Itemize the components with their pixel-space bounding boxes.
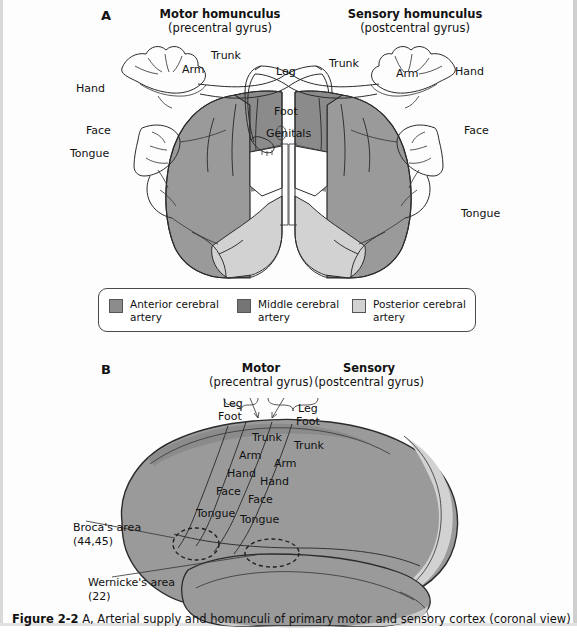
- panel-b-label-sensory-foot: Foot: [296, 416, 320, 428]
- label-right-tongue: Tongue: [461, 208, 500, 220]
- label-left-trunk: Trunk: [211, 50, 241, 62]
- right-ventricle-notch: [295, 146, 327, 196]
- label-left-leg: Leg: [276, 66, 296, 78]
- label-left-arm: Arm: [182, 64, 205, 76]
- label-left-face: Face: [86, 125, 111, 137]
- panel-a-illustration: [0, 0, 577, 290]
- left-ventricle-notch: [250, 146, 282, 196]
- legend-swatch-middle: [237, 299, 251, 313]
- left-brow: [152, 132, 165, 143]
- panel-b-label-sensory-leg: Leg: [298, 403, 318, 415]
- right-finger-crease-1: [419, 66, 442, 74]
- brocas-area-number: (44,45): [73, 536, 113, 548]
- right-palm-line: [371, 84, 437, 96]
- right-eye-line: [410, 146, 427, 150]
- panel-b-motor-title-sub: (precentral gyrus): [206, 376, 316, 390]
- wernickes-area-label: Wernicke's area: [88, 577, 175, 589]
- panel-b-sensory-trunk: Trunk: [294, 440, 324, 452]
- panel-b-motor-title: Motor (precentral gyrus): [206, 362, 316, 389]
- artery-legend: Anterior cerebral artery Middle cerebral…: [98, 288, 476, 332]
- panel-b-motor-hand: Hand: [227, 468, 256, 480]
- left-eye-line: [150, 146, 167, 150]
- label-right-trunk: Trunk: [329, 58, 359, 70]
- legend-item-posterior: Posterior cerebral artery: [352, 298, 481, 323]
- panel-b-sensory-hand: Hand: [260, 476, 289, 488]
- panel-b-motor-tongue: Tongue: [196, 508, 235, 520]
- legend-swatch-posterior: [352, 299, 366, 313]
- sensory-foot-arrowhead: [272, 412, 277, 418]
- label-left-hand: Hand: [76, 83, 105, 95]
- panel-b-label-motor-leg: Leg: [223, 398, 243, 410]
- label-left-foot: Foot: [274, 106, 298, 118]
- panel-b-sensory-title-main: Sensory: [304, 362, 434, 376]
- panel-b-motor-face: Face: [216, 486, 241, 498]
- panel-b-letter: B: [101, 362, 111, 377]
- left-mouth-line: [146, 158, 168, 163]
- label-left-genitals: Genitals: [266, 128, 311, 140]
- label-right-face: Face: [464, 125, 489, 137]
- right-wrist-line: [405, 96, 419, 108]
- legend-swatch-anterior: [109, 299, 123, 313]
- left-palm-line: [140, 84, 206, 96]
- panel-b-illustration: [0, 392, 577, 632]
- panel-b-motor-arm: Arm: [239, 450, 262, 462]
- left-finger-crease-3: [165, 54, 169, 72]
- legend-item-middle: Middle cerebral artery: [237, 298, 366, 323]
- left-finger-crease-1: [135, 66, 158, 74]
- panel-b-sensory-title: Sensory (postcentral gyrus): [304, 362, 434, 389]
- legend-label-anterior: Anterior cerebral artery: [130, 298, 238, 323]
- left-finger-crease-4: [173, 56, 182, 72]
- label-right-hand: Hand: [455, 66, 484, 78]
- panel-b-sensory-arm: Arm: [274, 458, 297, 470]
- brocas-area-label: Broca's area: [73, 522, 141, 534]
- figure-caption-text: A, Arterial supply and homunculi of prim…: [82, 612, 571, 626]
- panel-b-sensory-title-sub: (postcentral gyrus): [304, 376, 434, 390]
- right-arm-upper-edge: [297, 78, 379, 87]
- panel-b-motor-trunk: Trunk: [252, 432, 282, 444]
- motor-foot-leader: [250, 398, 258, 418]
- right-brow: [412, 132, 425, 143]
- right-hemisphere-coronal: [289, 91, 411, 278]
- label-left-tongue: Tongue: [70, 148, 109, 160]
- left-finger-crease-2: [148, 58, 162, 72]
- wernickes-area-number: (22): [88, 591, 111, 603]
- left-wrist-line: [158, 96, 172, 108]
- legend-label-middle: Middle cerebral artery: [258, 298, 366, 323]
- left-hemisphere-coronal: [166, 91, 288, 278]
- legend-item-anterior: Anterior cerebral artery: [109, 298, 238, 323]
- sensory-foot-leader: [272, 398, 284, 418]
- label-right-arm: Arm: [396, 68, 419, 80]
- panel-b-sensory-tongue: Tongue: [240, 514, 279, 526]
- figure-caption: Figure 2-2 A, Arterial supply and homunc…: [12, 612, 572, 626]
- panel-b-label-motor-foot: Foot: [218, 411, 242, 423]
- right-mouth-line: [409, 158, 431, 163]
- legend-label-posterior: Posterior cerebral artery: [373, 298, 481, 323]
- panel-b-sensory-face: Face: [248, 494, 273, 506]
- panel-b-motor-title-main: Motor: [206, 362, 316, 376]
- figure-caption-prefix: Figure 2-2: [12, 612, 78, 626]
- left-arm-upper-edge: [198, 78, 280, 87]
